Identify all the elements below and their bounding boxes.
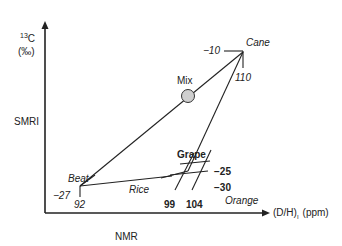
grape-label: Grape [177,149,206,160]
beat-x-value: 92 [74,199,86,210]
mix-point [182,90,195,103]
nmr-label: NMR [115,231,138,242]
grid-line-h3 [161,171,188,178]
beat-y-value: −27 [53,190,70,201]
cane-label: Cane [246,37,270,48]
isotope-diagram: 13C (‰) SMRI NMR (D/H)I(ppm) Cane −10 11… [0,0,342,246]
x-tick-99: 99 [164,199,176,210]
orange-label: Orange [225,195,259,206]
rice-label: Rice [129,184,149,195]
x-axis-arrow-icon [262,210,270,217]
mix-label: Mix [177,75,193,86]
y-tick-30: −30 [214,182,231,193]
y-axis-arrow-icon [42,21,49,29]
x-tick-104: 104 [186,199,203,210]
y-axis-label: 13C [20,32,35,44]
x-axis-label: (D/H)I(ppm) [273,207,329,220]
beat-rice-line [80,176,172,186]
smri-label: SMRI [14,116,39,127]
cane-x-value: 110 [235,72,251,83]
cane-y-value: −10 [203,45,220,56]
y-tick-25: −25 [214,166,231,177]
beat-label: Beat [68,173,90,184]
y-axis-unit: (‰) [18,46,35,57]
